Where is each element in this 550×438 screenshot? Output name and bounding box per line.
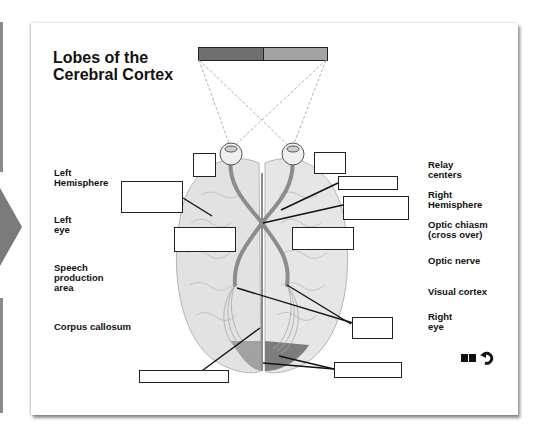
label-right-hemisphere[interactable]: Right Hemisphere <box>428 190 482 210</box>
label-right-eye[interactable]: Right eye <box>428 312 452 332</box>
left-eye-shape <box>220 143 242 165</box>
undo-icon[interactable] <box>480 351 494 365</box>
slide-controls <box>461 351 494 365</box>
right-hemisphere-shape <box>265 159 348 373</box>
answer-box-left-eye-top[interactable] <box>193 153 216 177</box>
previous-slide-edge-bottom <box>0 298 3 413</box>
label-relay-centers[interactable]: Relay centers <box>428 160 462 180</box>
right-eye-shape <box>282 143 304 165</box>
label-optic-nerve[interactable]: Optic nerve <box>428 256 480 266</box>
book-icon[interactable] <box>461 354 476 362</box>
answer-box-left-mid[interactable] <box>174 227 236 252</box>
answer-box-corpus-callosum[interactable] <box>139 370 229 383</box>
previous-slide-arrow-icon[interactable] <box>0 188 22 266</box>
label-left-eye[interactable]: Left eye <box>54 215 71 235</box>
left-hemisphere-shape <box>176 159 261 373</box>
label-optic-chiasm[interactable]: Optic chiasm (cross over) <box>428 220 488 240</box>
answer-box-visual-cortex[interactable] <box>334 362 402 378</box>
label-speech-production-area[interactable]: Speech production area <box>54 263 104 293</box>
previous-slide-edge-top <box>0 22 3 172</box>
label-visual-cortex[interactable]: Visual cortex <box>428 287 487 297</box>
visual-field-lines <box>199 60 326 149</box>
answer-box-relay-centers[interactable] <box>352 317 393 339</box>
answer-box-right-mid[interactable] <box>292 227 354 250</box>
answer-box-optic-chiasm[interactable] <box>343 196 409 220</box>
answer-box-left-hemisphere[interactable] <box>121 181 183 213</box>
label-left-hemisphere[interactable]: Left Hemisphere <box>54 168 108 188</box>
label-corpus-callosum[interactable]: Corpus callosum <box>54 322 131 332</box>
slide-card: Lobes of the Cerebral Cortex <box>31 23 518 415</box>
answer-box-right-eye-top[interactable] <box>314 152 346 174</box>
answer-box-optic-nerve[interactable] <box>338 176 398 190</box>
